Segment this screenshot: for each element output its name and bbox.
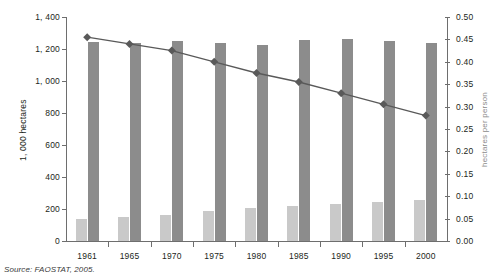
source-note: Source: FAOSTAT, 2005. <box>4 265 95 274</box>
y-axis-right-tick <box>445 107 450 108</box>
y-axis-right-tick <box>445 151 450 152</box>
x-axis-tick <box>278 242 279 247</box>
x-axis-tick-label: 1980 <box>237 251 277 261</box>
y-axis-left-tick-label: 800 <box>20 108 60 118</box>
x-axis-tick <box>362 242 363 247</box>
y-axis-right-tick <box>445 62 450 63</box>
bar-light <box>118 217 129 241</box>
bar-light <box>203 211 214 241</box>
bar-dark <box>215 43 226 241</box>
y-axis-title-right: hectares per person <box>480 92 489 167</box>
x-axis-tick <box>193 242 194 247</box>
y-axis-left-tick <box>62 81 66 82</box>
y-axis-right-tick <box>445 219 450 220</box>
y-axis-left-tick <box>62 17 66 18</box>
y-axis-left-line <box>66 17 67 241</box>
y-axis-left-tick-label: 400 <box>20 172 60 182</box>
y-axis-right-tick <box>445 174 450 175</box>
x-axis-tick <box>320 242 321 247</box>
x-axis-tick-label: 1970 <box>152 251 192 261</box>
bar-dark <box>342 39 353 241</box>
y-axis-left-tick-label: 0 <box>20 236 60 246</box>
y-axis-left-tick-label: 600 <box>20 140 60 150</box>
x-axis-tick-label: 1985 <box>279 251 319 261</box>
y-axis-left-tick <box>62 49 66 50</box>
bar-light <box>287 206 298 241</box>
bar-dark <box>88 42 99 241</box>
y-axis-left-tick-label: 1, 200 <box>20 44 60 54</box>
y-axis-left-tick <box>62 113 66 114</box>
y-axis-right-tick-label: 0.15 <box>456 169 473 179</box>
chart-root: 1, 000 hectares hectares per person 0200… <box>0 0 492 280</box>
y-axis-left-tick-label: 200 <box>20 204 60 214</box>
x-axis-tick <box>108 242 109 247</box>
y-axis-right-tick <box>445 39 450 40</box>
bar-light <box>160 215 171 241</box>
bar-light <box>414 200 425 241</box>
bar-dark <box>257 45 268 241</box>
bar-dark <box>426 43 437 241</box>
y-axis-right-tick-label: 0.10 <box>456 191 473 201</box>
bar-light <box>330 204 341 241</box>
x-axis-tick-label: 1975 <box>194 251 234 261</box>
y-axis-right-tick-label: 0.45 <box>456 34 473 44</box>
y-axis-left-tick <box>62 209 66 210</box>
x-axis-tick <box>405 242 406 247</box>
y-axis-right-tick-label: 0.20 <box>456 146 473 156</box>
x-axis-tick-label: 2000 <box>406 251 446 261</box>
y-axis-left-tick-label: 1, 000 <box>20 76 60 86</box>
bar-light <box>76 219 87 241</box>
y-axis-left-tick-label: 1, 400 <box>20 12 60 22</box>
x-axis-tick-label: 1965 <box>110 251 150 261</box>
y-axis-right-tick-label: 0.05 <box>456 214 473 224</box>
bar-dark <box>299 40 310 241</box>
y-axis-left-tick <box>62 145 66 146</box>
x-axis-tick <box>235 242 236 247</box>
x-axis-tick-label: 1990 <box>321 251 361 261</box>
y-axis-right-tick-label: 0.50 <box>456 12 473 22</box>
y-axis-right-tick <box>445 17 450 18</box>
x-axis-tick <box>151 242 152 247</box>
x-axis-tick-label: 1995 <box>364 251 404 261</box>
bar-light <box>372 202 383 241</box>
bar-light <box>245 208 256 241</box>
bar-dark <box>172 41 183 241</box>
bar-dark <box>384 41 395 241</box>
y-axis-right-tick-label: 0.35 <box>456 79 473 89</box>
y-axis-right-tick-label: 0.25 <box>456 124 473 134</box>
y-axis-right-tick <box>445 129 450 130</box>
bar-dark <box>130 43 141 241</box>
y-axis-right-tick-label: 0.00 <box>456 236 473 246</box>
y-axis-right-tick-label: 0.40 <box>456 57 473 67</box>
y-axis-right-tick <box>445 84 450 85</box>
y-axis-right-tick-label: 0.30 <box>456 102 473 112</box>
x-axis-line <box>66 241 448 242</box>
y-axis-left-tick <box>62 177 66 178</box>
y-axis-right-tick <box>445 196 450 197</box>
x-axis-tick-label: 1961 <box>67 251 107 261</box>
